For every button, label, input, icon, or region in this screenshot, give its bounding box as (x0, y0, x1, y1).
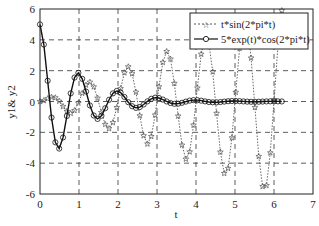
x-tick-label: 5 (232, 198, 238, 210)
star-marker-icon (233, 89, 239, 94)
y-tick-label: -2 (26, 126, 35, 138)
legend-label-2: 5*exp(t)*cos(2*pi*t) (221, 34, 310, 46)
x-tick-label: 6 (271, 198, 277, 210)
star-marker-icon (160, 59, 166, 64)
star-marker-icon (256, 153, 262, 158)
star-marker-icon (218, 149, 224, 154)
star-marker-icon (145, 141, 151, 146)
star-marker-icon (137, 113, 143, 118)
x-tick-label: 2 (115, 198, 121, 210)
legend-item-1: ☆ t*sin(2*pi*t) (194, 19, 276, 31)
star-marker-icon (214, 110, 220, 115)
chart: 01234567-6-4-20246 t y1& y2 ☆ t*sin(2*pi… (0, 0, 319, 226)
y-tick-label: 4 (30, 34, 36, 46)
star-marker-icon (248, 55, 254, 60)
star-marker-icon (110, 120, 116, 125)
x-tick-label: 0 (37, 198, 43, 210)
legend: ☆ t*sin(2*pi*t) 5*exp(t)*cos(2*pi*t) (190, 13, 310, 49)
y-tick-label: 2 (30, 65, 36, 77)
x-axis-label: t (174, 208, 177, 220)
star-marker-icon: ☆ (202, 20, 210, 30)
y-tick-label: -4 (26, 157, 36, 169)
y-tick-label: -6 (26, 188, 36, 200)
x-tick-label: 1 (76, 198, 82, 210)
y-axis-label: y1& y2 (5, 85, 17, 118)
star-marker-icon (187, 149, 193, 154)
star-marker-icon (164, 48, 170, 53)
circle-marker-icon (203, 36, 208, 41)
x-tick-label: 7 (310, 198, 316, 210)
y-tick-label: 0 (30, 96, 36, 108)
x-tick-label: 4 (193, 198, 199, 210)
star-marker-icon (198, 51, 204, 56)
star-marker-icon (210, 69, 216, 74)
star-marker-icon (141, 133, 147, 138)
star-marker-icon (279, 8, 285, 13)
star-marker-icon (129, 71, 135, 76)
star-marker-icon (148, 133, 154, 138)
legend-label-1: t*sin(2*pi*t) (221, 19, 276, 31)
star-marker-icon (191, 122, 197, 127)
x-tick-label: 3 (154, 198, 160, 210)
y-tick-label: 6 (30, 3, 36, 15)
